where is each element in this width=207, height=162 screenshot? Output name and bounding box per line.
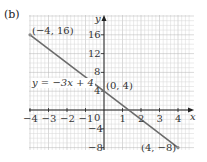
y-tick-label: 12	[88, 49, 101, 59]
point-label: (−4, 16)	[32, 26, 74, 36]
y-axis-label: y	[95, 14, 101, 24]
x-tick-label: 1	[120, 114, 126, 124]
y-tick-label: 4	[94, 86, 100, 96]
x-tick-label: −4	[23, 114, 38, 124]
y-tick-label: −4	[88, 124, 103, 134]
x-tick-label: 3	[157, 114, 163, 124]
x-tick-label: 0	[94, 113, 100, 123]
y-tick-label: 8	[94, 67, 100, 77]
x-tick-label: −3	[42, 114, 57, 124]
y-tick-label: −8	[88, 143, 103, 153]
data-point	[176, 146, 179, 149]
line-equation-label: y = −3x + 4	[31, 78, 95, 88]
point-label: (0, 4)	[106, 81, 133, 91]
x-tick-label: −2	[60, 114, 75, 124]
x-tick-label: 4	[175, 114, 181, 124]
point-label: (4, −8)	[141, 143, 176, 153]
x-axis-label: x	[190, 112, 196, 122]
y-tick-label: 16	[88, 30, 101, 40]
x-tick-label: 2	[138, 114, 144, 124]
